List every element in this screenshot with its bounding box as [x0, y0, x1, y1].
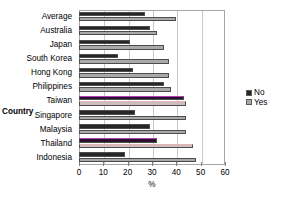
x-tick-label: 10: [99, 168, 108, 177]
bar-group: [79, 123, 225, 137]
category-label: Indonesia: [0, 151, 76, 165]
legend-swatch-yes-icon: [246, 99, 252, 105]
x-axis-title: %: [79, 180, 225, 189]
legend-swatch-no-icon: [246, 90, 252, 96]
category-label: Average: [0, 10, 76, 24]
bar-yes[interactable]: [79, 130, 186, 134]
category-label: Thailand: [0, 137, 76, 151]
bar-yes[interactable]: [79, 45, 164, 49]
bar-yes[interactable]: [79, 116, 186, 120]
bar-no[interactable]: [79, 26, 150, 30]
legend-label-no: No: [254, 88, 264, 98]
bar-group: [79, 94, 225, 108]
bar-group: [79, 80, 225, 94]
bar-group: [79, 66, 225, 80]
legend-label-yes: Yes: [254, 98, 267, 108]
bar-group: [79, 24, 225, 38]
y-axis-title: Country: [2, 107, 33, 116]
x-tickmark: [128, 162, 129, 166]
legend-item-yes: Yes: [246, 98, 267, 108]
bar-group: [79, 38, 225, 52]
category-label: Philippines: [0, 80, 76, 94]
category-label: South Korea: [0, 52, 76, 66]
bar-no[interactable]: [79, 152, 125, 156]
chart-legend: No Yes: [246, 88, 267, 107]
x-tickmark: [152, 162, 153, 166]
x-tick-label: 0: [77, 168, 82, 177]
bar-no[interactable]: [79, 40, 130, 44]
category-label: Japan: [0, 38, 76, 52]
x-tick-label: 50: [196, 168, 205, 177]
bar-no[interactable]: [79, 68, 133, 72]
x-tick-label: 30: [147, 168, 156, 177]
bar-no[interactable]: [79, 124, 150, 128]
bar-no[interactable]: [79, 96, 184, 100]
bar-group: [79, 52, 225, 66]
x-tick-label: 40: [172, 168, 181, 177]
bar-group: [79, 10, 225, 24]
bar-yes[interactable]: [79, 101, 186, 105]
bar-yes[interactable]: [79, 158, 196, 162]
category-label: Hong Kong: [0, 66, 76, 80]
x-tickmark: [103, 162, 104, 166]
x-tickmark: [225, 162, 226, 166]
bar-group: [79, 109, 225, 123]
bar-yes[interactable]: [79, 87, 171, 91]
x-tick-label: 60: [220, 168, 229, 177]
bar-no[interactable]: [79, 54, 118, 58]
bar-no[interactable]: [79, 82, 164, 86]
bar-group: [79, 137, 225, 151]
legend-item-no: No: [246, 88, 267, 98]
x-tickmark: [176, 162, 177, 166]
bar-chart: Average Australia Japan South Korea Hong…: [0, 0, 289, 205]
x-tickmark: [201, 162, 202, 166]
x-tick-label: 20: [123, 168, 132, 177]
bar-yes[interactable]: [79, 31, 157, 35]
category-label: Australia: [0, 24, 76, 38]
bar-no[interactable]: [79, 12, 145, 16]
bar-yes[interactable]: [79, 17, 176, 21]
bar-no[interactable]: [79, 110, 135, 114]
category-axis-labels: Average Australia Japan South Korea Hong…: [0, 10, 76, 165]
x-axis-ticks: 0102030405060: [79, 166, 225, 178]
x-tickmark: [79, 162, 80, 166]
bar-no[interactable]: [79, 138, 157, 142]
bar-yes[interactable]: [79, 144, 193, 148]
bar-yes[interactable]: [79, 59, 169, 63]
bars-layer: [79, 10, 225, 165]
category-label: Malaysia: [0, 123, 76, 137]
bar-yes[interactable]: [79, 73, 169, 77]
